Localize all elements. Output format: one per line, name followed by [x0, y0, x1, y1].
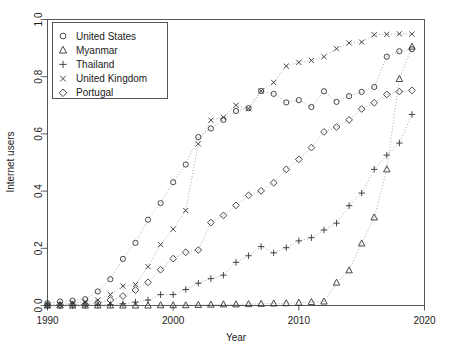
y-axis-label: Internet users: [5, 131, 16, 192]
chart-canvas: 1990200020102020 0.00.20.40.60.81.0 Year…: [0, 0, 452, 356]
y-tick-label: 0.8: [33, 69, 44, 83]
y-tick-label: 0.4: [33, 184, 44, 198]
y-tick-label: 0.6: [33, 127, 44, 141]
legend-item-label: United Kingdom: [76, 73, 147, 84]
legend-item-label: Thailand: [76, 59, 114, 70]
legend-item-label: United States: [76, 31, 136, 42]
x-tick-label: 2000: [162, 315, 185, 326]
x-tick-label: 2020: [413, 315, 436, 326]
x-tick-label: 1990: [36, 315, 59, 326]
legend-item-label: Portugal: [76, 87, 113, 98]
y-tick-label: 0.0: [33, 298, 44, 312]
legend-item-label: Myanmar: [76, 45, 118, 56]
x-axis-label: Year: [226, 332, 247, 343]
y-tick-label: 0.2: [33, 241, 44, 255]
x-tick-label: 2010: [288, 315, 311, 326]
chart-legend: United StatesMyanmarThailandUnited Kingd…: [53, 23, 168, 99]
scatter-plot: 1990200020102020 0.00.20.40.60.81.0 Year…: [0, 0, 452, 356]
y-tick-label: 1.0: [33, 12, 44, 26]
